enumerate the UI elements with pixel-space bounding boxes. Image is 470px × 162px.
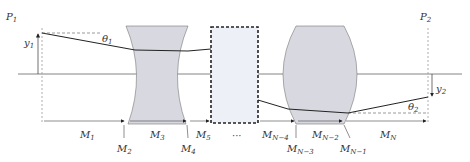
y2-label: y2 bbox=[435, 83, 447, 96]
m3-label: M3 bbox=[149, 129, 165, 142]
light-ray bbox=[42, 33, 211, 51]
p1-label: P1 bbox=[5, 11, 17, 24]
mn-1-label: MN−1 bbox=[339, 143, 367, 156]
theta2-label: θ2 bbox=[408, 101, 419, 114]
mn-3-label: MN−3 bbox=[286, 143, 314, 156]
generic-element-box bbox=[211, 27, 258, 123]
concave-lens bbox=[126, 26, 188, 124]
p2-label: P2 bbox=[419, 11, 432, 24]
m5-label: M5 bbox=[195, 129, 211, 142]
m2-label: M2 bbox=[116, 143, 132, 156]
ellipsis: ··· bbox=[232, 130, 242, 141]
optical-system-diagram: P1 P2 y1 y2 θ1 θ2 ··· M1 M2 M3 M4 M5 MN−… bbox=[0, 0, 470, 162]
m1-label: M1 bbox=[79, 129, 95, 142]
mn-2-label: MN−2 bbox=[311, 129, 339, 142]
m4-label: M4 bbox=[180, 143, 196, 156]
mn-4-label: MN−4 bbox=[261, 129, 289, 142]
y1-label: y1 bbox=[23, 37, 34, 50]
mn-label: MN bbox=[379, 129, 397, 142]
